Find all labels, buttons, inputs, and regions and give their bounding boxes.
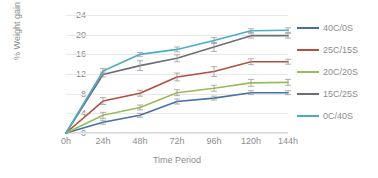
line-chart: 04812162024 % Weight gain 0h24h48h72h96h… <box>0 0 378 178</box>
legend-label: 20C/20S <box>323 68 358 77</box>
series-20C/20S <box>66 79 291 133</box>
legend-label: 40C/0S <box>323 24 353 33</box>
legend: 40C/0S25C/15S20C/20S15C/25S0C/40S <box>297 17 378 127</box>
legend-item-40C/0S[interactable]: 40C/0S <box>297 17 378 39</box>
x-axis-tick-label: 144h <box>271 137 305 146</box>
gridline <box>66 133 288 134</box>
x-axis-tick-label: 48h <box>123 137 157 146</box>
x-axis-title: Time Period <box>66 155 288 165</box>
legend-label: 0C/40S <box>323 112 353 121</box>
legend-swatch <box>297 27 319 29</box>
legend-swatch <box>297 93 319 95</box>
y-axis-title: % Weight gain <box>12 0 22 79</box>
series-layer <box>66 15 288 133</box>
legend-item-0C/40S[interactable]: 0C/40S <box>297 105 378 127</box>
legend-item-25C/15S[interactable]: 25C/15S <box>297 39 378 61</box>
series-40C/0S <box>66 91 291 133</box>
x-axis-tick-label: 72h <box>160 137 194 146</box>
x-axis-tick-label: 24h <box>86 137 120 146</box>
legend-swatch <box>297 115 319 117</box>
plot-area <box>66 15 288 133</box>
x-axis-tick-label: 96h <box>197 137 231 146</box>
legend-item-20C/20S[interactable]: 20C/20S <box>297 61 378 83</box>
x-axis-tick-label: 120h <box>234 137 268 146</box>
x-axis-tick-label: 0h <box>49 137 83 146</box>
legend-item-15C/25S[interactable]: 15C/25S <box>297 83 378 105</box>
legend-label: 15C/25S <box>323 90 358 99</box>
legend-swatch <box>297 71 319 73</box>
legend-label: 25C/15S <box>323 46 358 55</box>
series-line <box>66 62 288 133</box>
legend-swatch <box>297 49 319 51</box>
